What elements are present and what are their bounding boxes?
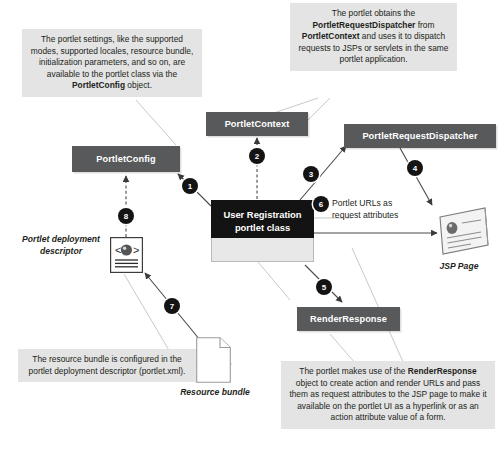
label-jsp-page: JSP Page [424,261,494,273]
component-portlet-request-dispatcher[interactable]: PortletRequestDispatcher [344,124,496,148]
note-resource-bundle: The resource bundle is configured in the… [18,349,196,382]
dd-label-line1: Portlet deployment [14,234,108,246]
resource-bundle-icon[interactable] [196,337,232,383]
label-resource-bundle: Resource bundle [176,387,254,399]
svg-text:>: > [133,244,139,256]
svg-text:<: < [115,244,121,256]
label-portlet-deployment-descriptor: Portlet deployment descriptor [14,234,108,257]
badge-6: 6 [313,196,329,212]
dd-label-line2: descriptor [14,246,108,258]
badge-8: 8 [118,208,134,224]
label-portlet-urls: Portlet URLs as request attributes [332,197,428,221]
badge-5: 5 [316,279,332,295]
component-portlet-context[interactable]: PortletContext [206,112,308,136]
diagram-canvas: The portlet settings, like the supported… [0,0,502,452]
component-portlet-config[interactable]: PortletConfig [72,146,180,172]
portlet-class-title-line2: portlet class [211,221,314,234]
badge-2: 2 [249,148,265,164]
portlet-urls-line2: request attributes [332,209,428,221]
note-portletconfig: The portlet settings, like the supported… [22,29,202,97]
badge-3: 3 [303,166,319,182]
portlet-deployment-descriptor-icon[interactable]: < > [110,237,143,273]
portlet-class-title-line1: User Registration [211,208,314,221]
portlet-urls-line1: Portlet URLs as [332,197,428,209]
jsp-page-icon[interactable] [437,205,491,257]
component-render-response[interactable]: RenderResponse [297,307,400,331]
component-portlet-class[interactable]: User Registration portlet class [211,200,314,262]
portlet-class-body [211,238,314,262]
badge-7: 7 [164,298,180,314]
note-request-dispatcher: The portlet obtains the PortletRequestDi… [290,3,457,71]
badge-4: 4 [407,160,423,176]
badge-1: 1 [182,178,198,194]
note-render-response: The portlet makes use of the RenderRespo… [281,361,495,429]
portlet-class-header: User Registration portlet class [211,200,314,238]
